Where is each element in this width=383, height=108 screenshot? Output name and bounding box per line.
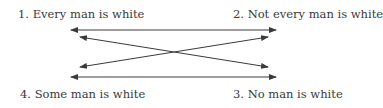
arrows-diagram bbox=[0, 0, 366, 108]
